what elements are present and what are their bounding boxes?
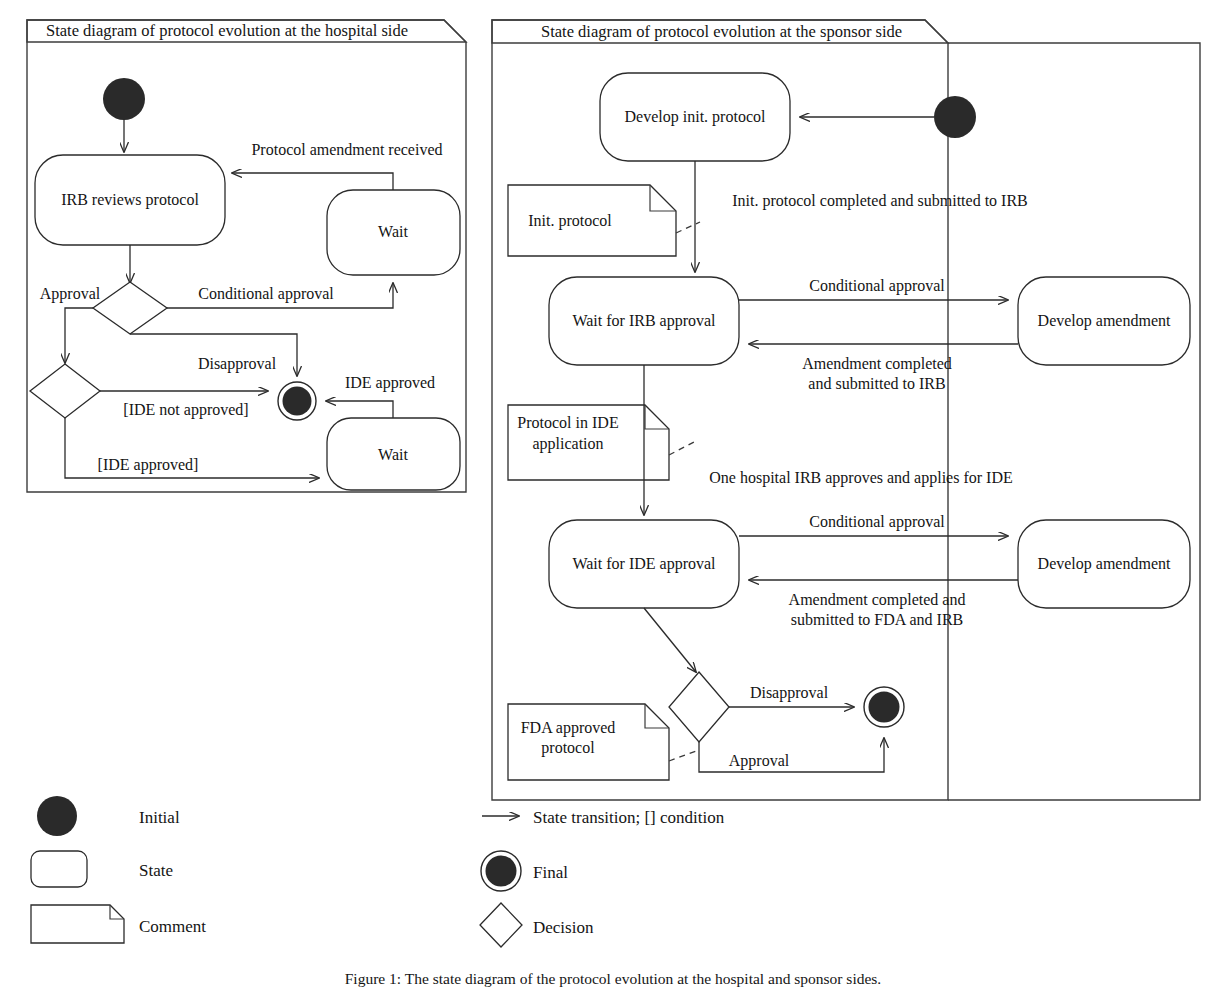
comment-init-protocol-link	[676, 222, 700, 233]
panel-sponsor-border-right	[948, 43, 1200, 800]
comment-fda-approved-line1: FDA approved	[521, 719, 616, 737]
label-disapproval-fda: Disapproval	[750, 684, 829, 702]
label-protocol-amendment-received: Protocol amendment received	[251, 141, 442, 158]
panel-sponsor-title: State diagram of protocol evolution at t…	[541, 22, 902, 41]
initial-node-icon	[934, 96, 976, 138]
label-one-hospital-irb: One hospital IRB approves and applies fo…	[709, 469, 1012, 487]
legend-initial-label: Initial	[139, 808, 180, 827]
label-approval: Approval	[40, 285, 101, 303]
comment-fda-approved-link	[669, 750, 699, 761]
figure-caption: Figure 1: The state diagram of the proto…	[345, 970, 882, 987]
comment-protocol-in-ide-line1: Protocol in IDE	[517, 414, 618, 431]
label-cond-approval-ide: Conditional approval	[809, 513, 945, 531]
label-amendment-fda-line2: submitted to FDA and IRB	[791, 611, 963, 628]
figure-root: State diagram of protocol evolution at t…	[0, 0, 1227, 992]
edge-approval-to-decision-ide	[65, 308, 93, 363]
label-init-submitted: Init. protocol completed and submitted t…	[732, 192, 1028, 210]
comment-protocol-in-ide-link	[669, 442, 694, 455]
state-develop-amendment-irb-label: Develop amendment	[1038, 312, 1171, 330]
rounded-rect-icon	[31, 851, 87, 887]
state-develop-amendment-ide-label: Develop amendment	[1038, 555, 1171, 573]
label-cond-approval-irb: Conditional approval	[809, 277, 945, 295]
label-ide-approved-event: IDE approved	[345, 374, 435, 392]
decision-ide	[30, 364, 100, 418]
label-ide-approved-guard: [IDE approved]	[98, 456, 199, 474]
edge-protocol-amendment-received	[232, 173, 393, 190]
legend-transition-label: State transition; [] condition	[533, 808, 725, 827]
legend: Initial State Comment State transition; …	[31, 796, 725, 947]
state-irb-reviews-protocol-label: IRB reviews protocol	[61, 191, 199, 209]
filled-circle-icon	[37, 796, 77, 836]
decision-approval	[93, 282, 167, 334]
label-amendment-fda-line1: Amendment completed and	[789, 591, 966, 609]
panel-sponsor: State diagram of protocol evolution at t…	[492, 20, 1200, 800]
final-node-icon	[283, 387, 312, 416]
legend-final-label: Final	[533, 863, 568, 882]
label-ide-not-approved: [IDE not approved]	[123, 401, 248, 419]
comment-init-protocol-label: Init. protocol	[528, 212, 612, 230]
state-wait-for-ide-approval-label: Wait for IDE approval	[572, 555, 716, 573]
edge-ide-approved-event	[326, 401, 393, 418]
ringed-circle-icon-core	[486, 856, 517, 887]
legend-state-label: State	[139, 861, 173, 880]
label-disapproval: Disapproval	[198, 355, 277, 373]
decision-fda	[669, 672, 729, 742]
edge-approval-fda	[699, 738, 884, 772]
comment-fda-approved-line2: protocol	[541, 739, 595, 757]
label-amendment-irb-line1: Amendment completed	[802, 355, 952, 373]
label-amendment-irb-line2: and submitted to IRB	[808, 375, 945, 392]
diamond-icon	[480, 903, 522, 947]
state-wait-bottom-label: Wait	[378, 446, 408, 463]
legend-decision-label: Decision	[533, 918, 594, 937]
state-diagram-canvas: State diagram of protocol evolution at t…	[0, 0, 1227, 992]
panel-hospital-title: State diagram of protocol evolution at t…	[46, 21, 408, 40]
final-node-icon	[869, 692, 900, 723]
comment-protocol-in-ide-line2: application	[532, 435, 603, 453]
label-conditional-approval: Conditional approval	[198, 285, 334, 303]
state-wait-top-label: Wait	[378, 223, 408, 240]
edge-ide-to-decision	[644, 608, 696, 672]
label-approval-fda: Approval	[729, 752, 790, 770]
state-develop-init-protocol-label: Develop init. protocol	[625, 108, 766, 126]
initial-node-icon	[103, 78, 145, 120]
state-wait-for-irb-approval-label: Wait for IRB approval	[572, 312, 716, 330]
panel-hospital: State diagram of protocol evolution at t…	[27, 20, 466, 492]
legend-comment-label: Comment	[139, 917, 206, 936]
